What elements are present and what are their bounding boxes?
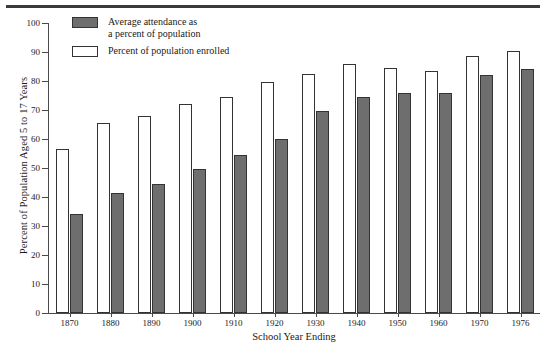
bar-attendance xyxy=(152,184,165,313)
bar-attendance xyxy=(521,69,534,313)
bar-group xyxy=(56,23,83,313)
bar-attendance xyxy=(316,111,329,313)
bar-enrolled xyxy=(507,51,520,313)
y-tick-label: 10 xyxy=(4,280,40,289)
bar-group xyxy=(507,23,534,313)
bar-group xyxy=(220,23,247,313)
bar-attendance xyxy=(439,93,452,313)
y-tick-label-wrap: 90 xyxy=(0,48,40,57)
bar-enrolled xyxy=(220,97,233,313)
x-tick-label: 1976 xyxy=(496,318,546,328)
bar-attendance xyxy=(234,155,247,313)
y-tick-label: 30 xyxy=(4,222,40,231)
x-tick-1870 xyxy=(70,313,71,317)
y-tick-label: 60 xyxy=(4,135,40,144)
x-tick-1940 xyxy=(357,313,358,317)
bar-group xyxy=(138,23,165,313)
x-tick-1950 xyxy=(398,313,399,317)
y-tick-label: 20 xyxy=(4,251,40,260)
legend-label: Percent of population enrolled xyxy=(108,45,229,57)
y-tick-0 xyxy=(42,313,49,314)
y-tick-label-wrap: 0 xyxy=(0,309,40,318)
plot-area xyxy=(48,23,540,313)
y-tick-label: 100 xyxy=(4,19,40,28)
top-rule-divider xyxy=(6,5,540,8)
bar-group xyxy=(343,23,370,313)
bar-enrolled xyxy=(425,71,438,313)
x-tick-1976 xyxy=(521,313,522,317)
x-tick-1970 xyxy=(480,313,481,317)
y-tick-label: 40 xyxy=(4,193,40,202)
y-tick-label-wrap: 100 xyxy=(0,19,40,28)
y-tick-label-wrap: 20 xyxy=(0,251,40,260)
bar-group xyxy=(261,23,288,313)
bar-enrolled xyxy=(466,56,479,313)
legend-swatch-attendance xyxy=(72,17,98,28)
y-tick-label: 70 xyxy=(4,106,40,115)
x-tick-1890 xyxy=(152,313,153,317)
bar-group xyxy=(302,23,329,313)
bar-group xyxy=(425,23,452,313)
y-tick-label: 80 xyxy=(4,77,40,86)
x-tick-1930 xyxy=(316,313,317,317)
x-axis-line xyxy=(48,313,540,314)
y-tick-label-wrap: 40 xyxy=(0,193,40,202)
bar-attendance xyxy=(111,193,124,313)
y-tick-label-wrap: 80 xyxy=(0,77,40,86)
y-tick-label-wrap: 60 xyxy=(0,135,40,144)
bar-enrolled xyxy=(179,104,192,313)
x-tick-1880 xyxy=(111,313,112,317)
bar-enrolled xyxy=(261,82,274,313)
bar-enrolled xyxy=(97,123,110,313)
x-tick-1960 xyxy=(439,313,440,317)
y-tick-label-wrap: 50 xyxy=(0,164,40,173)
bar-attendance xyxy=(275,139,288,313)
bar-attendance xyxy=(357,97,370,313)
y-tick-label: 0 xyxy=(4,309,40,318)
legend-item: Percent of population enrolled xyxy=(72,45,302,57)
legend-label: Average attendance as a percent of popul… xyxy=(108,16,200,39)
chart-figure: Percent of Population Aged 5 to 17 Years… xyxy=(0,0,546,348)
bar-enrolled xyxy=(138,116,151,313)
bar-enrolled xyxy=(343,64,356,313)
bar-attendance xyxy=(398,93,411,313)
bar-group xyxy=(179,23,206,313)
y-tick-label-wrap: 10 xyxy=(0,280,40,289)
bar-enrolled xyxy=(384,68,397,313)
bar-group xyxy=(97,23,124,313)
bar-group xyxy=(384,23,411,313)
bar-enrolled xyxy=(56,149,69,313)
bar-enrolled xyxy=(302,74,315,313)
y-tick-label-wrap: 70 xyxy=(0,106,40,115)
x-axis-title: School Year Ending xyxy=(48,331,540,342)
bar-attendance xyxy=(480,75,493,313)
bar-group xyxy=(466,23,493,313)
x-tick-1920 xyxy=(275,313,276,317)
bar-attendance xyxy=(70,214,83,313)
legend-item: Average attendance as a percent of popul… xyxy=(72,16,302,39)
x-tick-1910 xyxy=(234,313,235,317)
bar-attendance xyxy=(193,169,206,313)
chart-legend: Average attendance as a percent of popul… xyxy=(72,16,302,63)
legend-swatch-enrolled xyxy=(72,46,98,57)
x-tick-1900 xyxy=(193,313,194,317)
y-tick-label: 50 xyxy=(4,164,40,173)
y-tick-label-wrap: 30 xyxy=(0,222,40,231)
y-tick-label: 90 xyxy=(4,48,40,57)
